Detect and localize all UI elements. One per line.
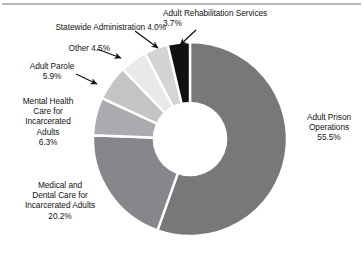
- slice-label-statewide-administration: Statewide Administration 4.0%: [4, 22, 166, 32]
- statewide-arrow: [135, 31, 158, 48]
- chart-figure: Statewide Administration 4.0% Adult Reha…: [0, 0, 363, 264]
- slice-label-medical-dental-care: Medical and Dental Care for Incarcerated…: [0, 180, 120, 221]
- slice-label-other: Other 4.5%: [6, 43, 110, 53]
- slice-label-adult-parole: Adult Parole 5.9%: [4, 61, 100, 81]
- donut-center-hole: [153, 102, 228, 177]
- slice-label-mental-health-care: Mental Health Care for Incarcerated Adul…: [2, 96, 94, 147]
- slice-label-adult-prison-operations: Adult Prison Operations 55.5%: [296, 112, 362, 143]
- slice-label-adult-rehabilitation-services: Adult Rehabilitation Services 3.7%: [163, 8, 281, 28]
